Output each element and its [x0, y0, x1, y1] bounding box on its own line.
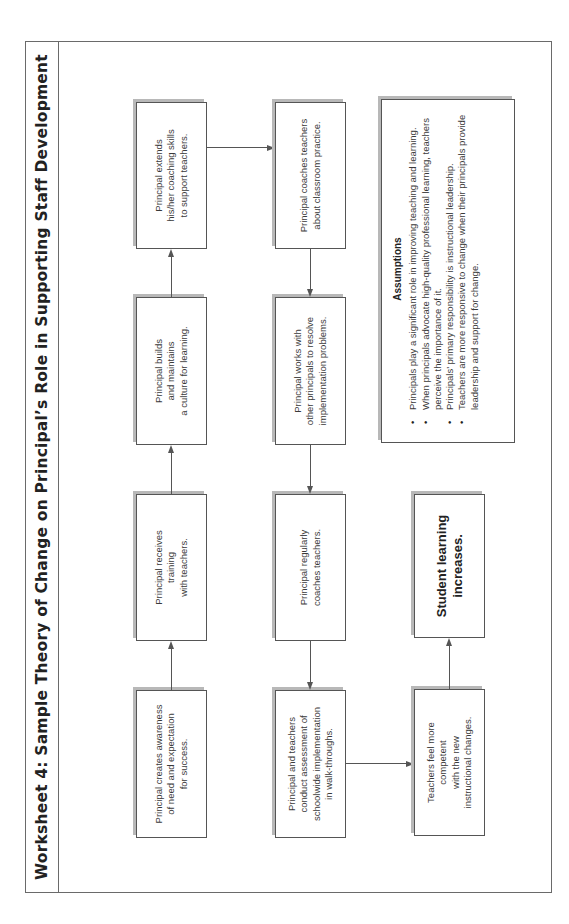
arrowhead-icon	[168, 641, 174, 649]
assumption-item: When principals advocate high-quality pr…	[420, 114, 445, 414]
box-works-with-principals: Principal works with other principals to…	[275, 297, 346, 445]
arrow-line	[310, 249, 311, 289]
title-bar: Worksheet 4: Sample Theory of Change on …	[25, 41, 59, 893]
arrow-line	[310, 445, 311, 486]
arrow-line	[171, 649, 172, 690]
assumptions-box: Assumptions Principals play a significan…	[381, 99, 515, 443]
arrow-line	[449, 646, 450, 689]
box-builds-culture: Principal builds and maintains a culture…	[136, 297, 207, 445]
box-teachers-feel-competent: Teachers feel more competent with the ne…	[414, 689, 485, 836]
assumptions-list: Principals play a significant role in im…	[407, 114, 481, 424]
box-extends-coaching: Principal extends his/her coaching skill…	[136, 102, 207, 249]
box-coaches-classroom: Principal coaches teachers about classro…	[275, 102, 346, 249]
arrow-line	[346, 763, 406, 764]
assumption-item: Principals play a significant role in im…	[407, 114, 419, 414]
worksheet-page: Worksheet 4: Sample Theory of Change on …	[0, 0, 569, 924]
arrowhead-icon	[307, 682, 313, 690]
arrow-line	[207, 147, 267, 148]
box-student-learning: Student learning increases.	[414, 494, 485, 638]
arrowhead-icon	[267, 145, 275, 151]
arrowhead-icon	[406, 761, 414, 767]
box-walkthroughs: Principal and teachers conduct assessmen…	[275, 690, 346, 838]
arrowhead-icon	[168, 445, 174, 453]
arrow-line	[171, 453, 172, 494]
arrowhead-icon	[446, 638, 452, 646]
arrow-line	[310, 641, 311, 682]
arrowhead-icon	[307, 289, 313, 297]
assumption-item: Principals’ primary responsibility is in…	[444, 114, 456, 414]
page-title: Worksheet 4: Sample Theory of Change on …	[33, 54, 51, 880]
arrowhead-icon	[168, 249, 174, 257]
arrow-line	[171, 257, 172, 297]
assumptions-heading: Assumptions	[392, 114, 404, 424]
box-creates-awareness: Principal creates awareness of need and …	[136, 690, 207, 838]
assumption-item: Teachers are more responsive to change w…	[456, 114, 481, 414]
box-receives-training: Principal receives training with teacher…	[136, 494, 207, 641]
arrowhead-icon	[307, 486, 313, 494]
box-regularly-coaches: Principal regularly coaches teachers.	[275, 494, 346, 641]
